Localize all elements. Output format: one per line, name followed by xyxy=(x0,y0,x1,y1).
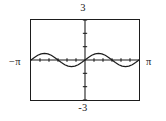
x-min-label: −π xyxy=(9,57,21,68)
x-max-label: π xyxy=(146,57,152,68)
plot-canvas xyxy=(31,20,139,100)
y-min-label: -3 xyxy=(0,103,166,114)
graph-figure: 3 −π π -3 xyxy=(0,0,166,121)
y-max-label: 3 xyxy=(0,3,166,14)
plot-viewing-window xyxy=(30,19,140,101)
